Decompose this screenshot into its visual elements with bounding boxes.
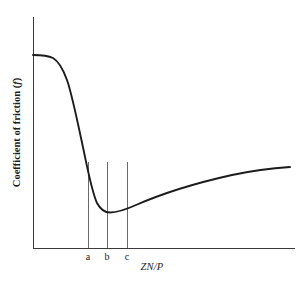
stribeck-curve-figure: a b c ZN/P Coefficient of friction (f): [0, 0, 304, 288]
friction-curve: [33, 55, 290, 213]
x-axis-title: ZN/P: [0, 261, 304, 272]
y-axis-title-container: Coefficient of friction (f): [8, 17, 26, 248]
y-axis-title-suffix: ): [12, 78, 23, 82]
y-axis-title-prefix: Coefficient of friction (: [12, 85, 23, 187]
plot-area: [0, 0, 304, 288]
y-axis-title: Coefficient of friction (f): [12, 78, 23, 187]
y-axis-title-symbol: f: [12, 81, 23, 85]
